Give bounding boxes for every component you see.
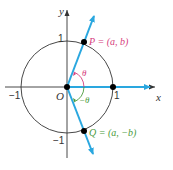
neg-theta-label: −θ: [79, 95, 90, 105]
tick-x-neg1: −1: [9, 90, 21, 101]
point-q: [81, 128, 87, 134]
x-axis-label: x: [155, 91, 161, 103]
point-p: [81, 39, 87, 45]
tick-x-1: 1: [114, 90, 120, 101]
tick-y-neg1: −1: [53, 135, 65, 146]
origin-label: O: [56, 90, 64, 102]
diagram-canvas: y x 1 −1 −1 1 O P = (a, b) Q = (a, −b) θ…: [0, 0, 173, 170]
origin-point: [64, 84, 70, 90]
point-q-label: Q = (a, −b): [89, 127, 137, 139]
point-p-label: P = (a, b): [88, 36, 129, 48]
unit-circle-diagram: y x 1 −1 −1 1 O P = (a, b) Q = (a, −b) θ…: [0, 0, 173, 170]
y-axis-label: y: [58, 5, 64, 17]
theta-label: θ: [82, 68, 87, 78]
tick-y-1: 1: [58, 33, 64, 44]
